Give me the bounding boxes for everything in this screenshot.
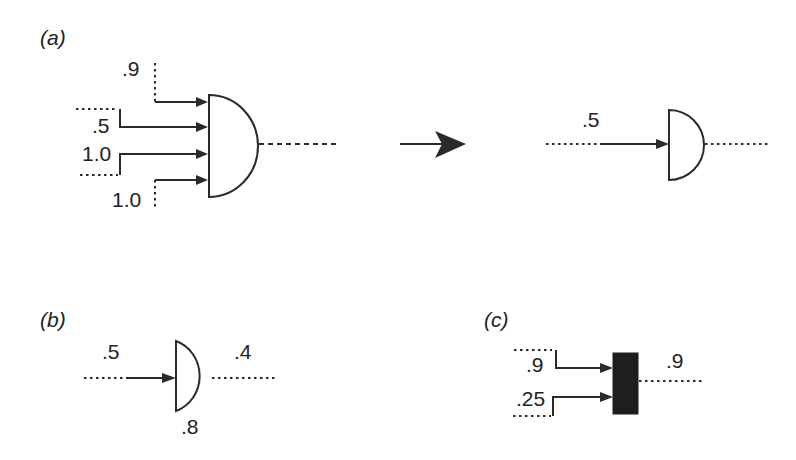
black-block-node [613, 353, 638, 414]
gate-value-label: .8 [181, 415, 199, 438]
input-label: .9 [122, 57, 140, 80]
panel-c-label: (c) [484, 308, 509, 331]
input-label: 1.0 [82, 142, 111, 165]
panel-a-left-gate-group: .9 .5 1.0 1.0 [76, 57, 340, 211]
panel-a-right-gate-group: .5 [546, 108, 770, 180]
input-wire-solid [120, 154, 196, 175]
panel-b-label: (b) [40, 308, 66, 331]
output-label: .9 [666, 349, 684, 372]
arrowhead-icon [600, 363, 613, 373]
diagram-canvas: (a) .9 .5 1.0 1.0 [0, 0, 796, 460]
and-gate-shape [669, 110, 704, 180]
panel-a: (a) .9 .5 1.0 1.0 [40, 26, 770, 211]
input-wire-solid [556, 350, 600, 368]
input-wire-solid [553, 397, 600, 416]
and-gate-shape [176, 341, 200, 411]
output-label: .4 [234, 340, 252, 363]
input-label: .5 [102, 340, 120, 363]
panel-a-label: (a) [40, 26, 66, 49]
input-label: 1.0 [112, 188, 141, 211]
input-wire-solid [120, 109, 196, 127]
arrowhead-icon [196, 149, 208, 159]
arrowhead-icon [656, 139, 669, 149]
arrowhead-icon [162, 373, 176, 383]
arrowhead-icon [196, 97, 208, 107]
panel-b: (b) .5 .4 .8 [40, 308, 278, 438]
arrowhead-icon [196, 122, 208, 132]
panel-c: (c) .9 .25 .9 [484, 308, 703, 416]
and-gate-shape [209, 95, 258, 197]
transform-arrow-icon [400, 131, 466, 158]
input-label: .9 [526, 353, 544, 376]
input-label: .5 [582, 108, 600, 131]
input-label: .25 [516, 387, 545, 410]
arrowhead-icon [600, 392, 613, 402]
input-label: .5 [92, 114, 110, 137]
arrowhead-icon [196, 175, 208, 185]
